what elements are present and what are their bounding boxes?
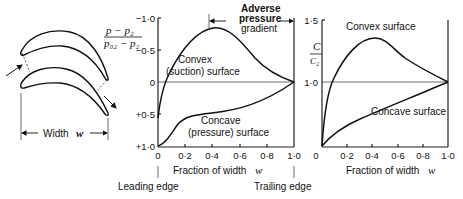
pressure-ylabel-denominator: p₀₂ − p₂: [103, 37, 140, 49]
blade-cascade-diagram: Width w: [6, 31, 116, 140]
pressure-xtick: 0·6: [233, 150, 247, 161]
figure-canvas: Width w p − p₂ p₀₂ − p₂ −1·0 −0·5 0 +0·5…: [0, 0, 463, 199]
convex-label-line2: (suction) surface: [166, 66, 240, 77]
pressure-ylabel-numerator: p − p₂: [105, 24, 134, 36]
convex-surface-label: Convex surface: [346, 21, 416, 32]
pressure-xlabel-symbol: w: [255, 164, 263, 176]
pressure-chart: p − p₂ p₀₂ − p₂ −1·0 −0·5 0 +0·5 +1·0 0 …: [103, 3, 312, 192]
inlet-flow-arrow-icon: [6, 65, 22, 76]
pressure-xtick: 0·2: [178, 150, 192, 161]
width-symbol: w: [76, 127, 84, 139]
pressure-ytick: −0·5: [136, 45, 155, 56]
velocity-xtick: 0·4: [365, 150, 379, 161]
velocity-xlabel: Fraction of width: [346, 165, 419, 176]
velocity-chart: C C₂ 1·5 1·0 0 0·2 0·4 0·6 0·8 1·0 Fract…: [304, 15, 455, 176]
velocity-ytick: 1·5: [304, 15, 318, 26]
velocity-xtick: 0·6: [391, 150, 405, 161]
pressure-xtick: 0: [155, 150, 160, 161]
trailing-edge-label: Trailing edge: [254, 181, 312, 192]
pressure-xtick: 1·0: [287, 150, 301, 161]
outlet-flow-arrow-icon: [104, 96, 116, 108]
width-label: Width: [43, 128, 69, 139]
velocity-xtick: 0·2: [340, 150, 354, 161]
velocity-ylabel-numerator: C: [313, 40, 321, 52]
concave-label-line2: (pressure) surface: [188, 127, 270, 138]
pressure-ytick: 0: [150, 77, 155, 88]
concave-surface-label: Concave surface: [371, 106, 446, 117]
pressure-xlabel: Fraction of width: [173, 165, 246, 176]
velocity-ylabel-denominator: C₂: [310, 56, 319, 66]
pressure-ytick: +1·0: [136, 141, 155, 152]
adverse-label-line3: gradient: [241, 23, 277, 34]
velocity-xtick: 1·0: [441, 150, 455, 161]
convex-label-line1: Convex: [178, 54, 212, 65]
pressure-ytick: +0·5: [136, 109, 155, 120]
leading-edge-label: Leading edge: [118, 181, 179, 192]
velocity-ytick: 1·0: [304, 77, 318, 88]
velocity-xlabel-symbol: w: [428, 164, 436, 176]
pressure-xtick: 0·4: [205, 150, 219, 161]
pressure-ytick: −1·0: [136, 13, 155, 24]
concave-label-line1: Concave: [201, 115, 241, 126]
outlet-pitch-line: [96, 80, 107, 92]
velocity-origin-tick: 0: [313, 150, 318, 161]
pressure-xtick: 0·8: [260, 150, 274, 161]
velocity-xtick: 0·8: [416, 150, 430, 161]
lower-blade: [21, 68, 109, 116]
